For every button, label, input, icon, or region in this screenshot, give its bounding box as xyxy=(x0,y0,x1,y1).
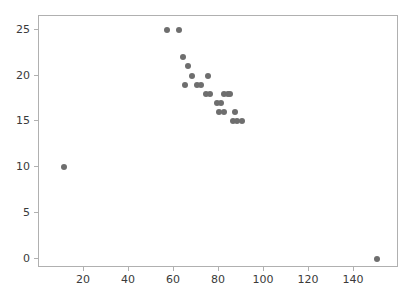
y-tick-label: 5 xyxy=(4,206,30,219)
y-tick-label: 15 xyxy=(4,114,30,127)
y-tick-label: 0 xyxy=(4,251,30,264)
data-point xyxy=(227,91,233,97)
data-point xyxy=(182,82,188,88)
plot-area xyxy=(38,15,398,267)
data-point xyxy=(205,73,211,79)
x-tick-label: 20 xyxy=(76,273,90,286)
data-point xyxy=(176,27,182,33)
x-tick-mark xyxy=(263,267,264,271)
y-tick-label: 10 xyxy=(4,160,30,173)
data-point xyxy=(189,73,195,79)
x-tick-label: 60 xyxy=(166,273,180,286)
y-tick-mark xyxy=(34,212,38,213)
x-tick-label: 80 xyxy=(211,273,225,286)
x-tick-mark xyxy=(353,267,354,271)
data-point xyxy=(61,164,67,170)
data-point xyxy=(207,91,213,97)
data-point xyxy=(239,118,245,124)
x-tick-mark xyxy=(173,267,174,271)
data-point xyxy=(374,256,380,262)
y-tick-mark xyxy=(34,75,38,76)
y-tick-label: 20 xyxy=(4,68,30,81)
y-tick-mark xyxy=(34,258,38,259)
y-tick-mark xyxy=(34,120,38,121)
data-point xyxy=(198,82,204,88)
y-tick-label: 25 xyxy=(4,22,30,35)
y-tick-mark xyxy=(34,29,38,30)
data-point xyxy=(218,100,224,106)
y-tick-mark xyxy=(34,166,38,167)
data-point xyxy=(232,109,238,115)
x-tick-label: 100 xyxy=(253,273,274,286)
x-tick-label: 40 xyxy=(121,273,135,286)
data-point xyxy=(164,27,170,33)
data-point xyxy=(180,54,186,60)
data-point xyxy=(185,63,191,69)
data-point xyxy=(221,109,227,115)
x-tick-mark xyxy=(308,267,309,271)
x-tick-label: 120 xyxy=(298,273,319,286)
x-tick-mark xyxy=(128,267,129,271)
scatter-chart-figure: 204060801001201400510152025 xyxy=(0,0,414,307)
x-tick-mark xyxy=(218,267,219,271)
x-tick-mark xyxy=(83,267,84,271)
x-tick-label: 140 xyxy=(343,273,364,286)
